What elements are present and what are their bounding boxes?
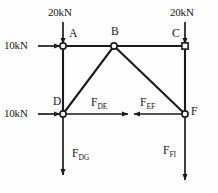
load-label-a-horizontal: 10kN: [4, 40, 28, 51]
force-label-de: FDE: [91, 97, 107, 111]
node-markers: [60, 43, 188, 117]
node-marker-f: [182, 111, 188, 117]
truss-members: [63, 46, 185, 114]
force-label-dg: FDG: [72, 148, 89, 162]
force-label-fi: FFI: [163, 145, 176, 159]
force-subscript-ef: EF: [146, 102, 155, 111]
node-marker-b: [111, 43, 117, 49]
force-subscript-de: DE: [97, 102, 107, 111]
load-label-a-vertical: 20kN: [48, 7, 72, 18]
node-label-c: C: [172, 28, 180, 40]
node-label-f: F: [191, 106, 197, 118]
force-label-ef: FEF: [140, 97, 155, 111]
free-body-diagram: 20kN 20kN 10kN 10kN A B C D F FDE FEF FD…: [0, 0, 218, 193]
truss-diagram-canvas: [0, 0, 218, 193]
node-label-d: D: [53, 96, 61, 108]
force-subscript-dg: DG: [78, 153, 89, 162]
node-marker-c: [182, 43, 188, 49]
node-marker-a: [60, 43, 66, 49]
node-label-a: A: [69, 28, 77, 40]
force-subscript-fi: FI: [169, 150, 175, 159]
load-label-c-vertical: 20kN: [170, 7, 194, 18]
node-marker-d: [60, 111, 66, 117]
load-label-d-horizontal: 10kN: [4, 108, 28, 119]
node-label-b: B: [111, 26, 119, 38]
